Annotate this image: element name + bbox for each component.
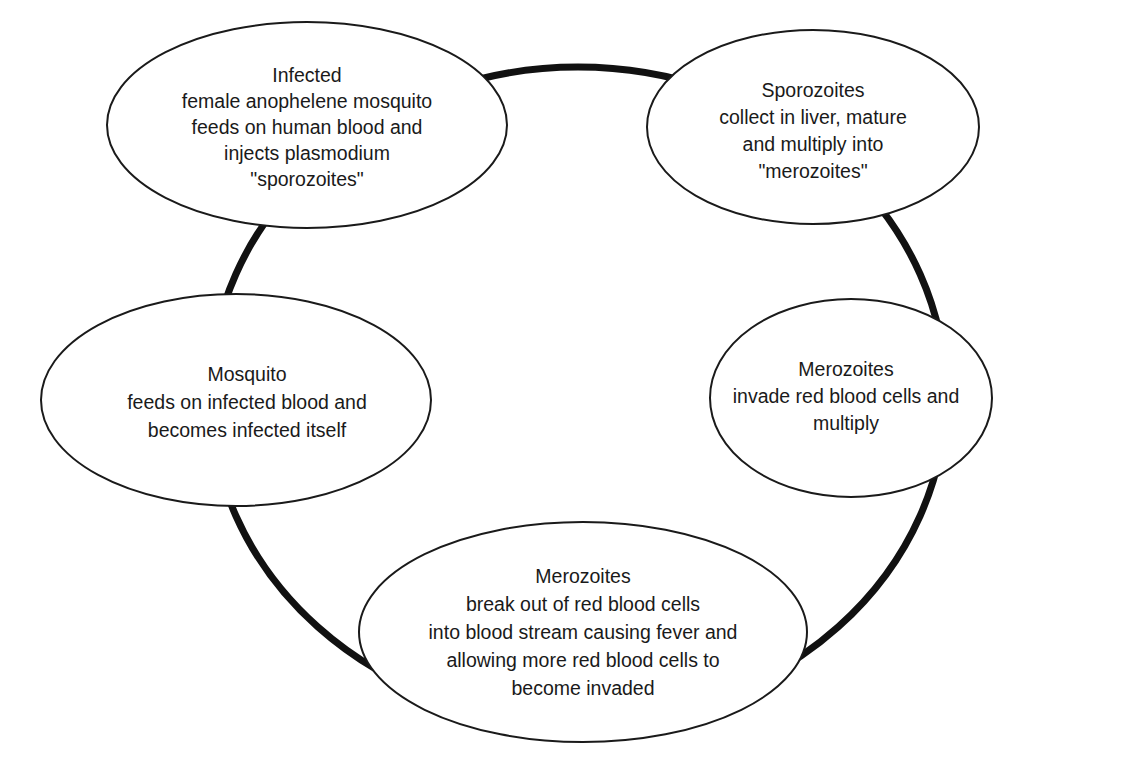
node-line: and multiply into <box>719 131 907 158</box>
node-line: female anophelene mosquito <box>182 88 432 114</box>
node-line: become invaded <box>429 674 738 702</box>
node-title: Merozoites <box>429 562 738 590</box>
node-sporozoites-liver: Sporozoites collect in liver, mature and… <box>719 77 907 185</box>
node-title: Merozoites <box>733 356 960 383</box>
node-title: Sporozoites <box>719 77 907 104</box>
node-infected-mosquito: Infected female anophelene mosquito feed… <box>182 62 432 192</box>
node-title: Mosquito <box>127 360 367 388</box>
node-line: feeds on infected blood and <box>127 388 367 416</box>
node-merozoites-invade: Merozoites invade red blood cells and mu… <box>733 356 960 437</box>
node-line: "merozoites" <box>719 158 907 185</box>
node-line: allowing more red blood cells to <box>429 646 738 674</box>
node-line: collect in liver, mature <box>719 104 907 131</box>
node-line: feeds on human blood and <box>182 114 432 140</box>
node-line: into blood stream causing fever and <box>429 618 738 646</box>
node-line: "sporozoites" <box>182 166 432 192</box>
node-line: invade red blood cells and <box>733 383 960 410</box>
node-merozoites-break-out: Merozoites break out of red blood cells … <box>429 562 738 702</box>
node-line: break out of red blood cells <box>429 590 738 618</box>
node-title: Infected <box>182 62 432 88</box>
node-line: becomes infected itself <box>127 416 367 444</box>
node-mosquito-feeds: Mosquito feeds on infected blood and bec… <box>127 360 367 444</box>
node-line: injects plasmodium <box>182 140 432 166</box>
node-line: multiply <box>733 410 960 437</box>
